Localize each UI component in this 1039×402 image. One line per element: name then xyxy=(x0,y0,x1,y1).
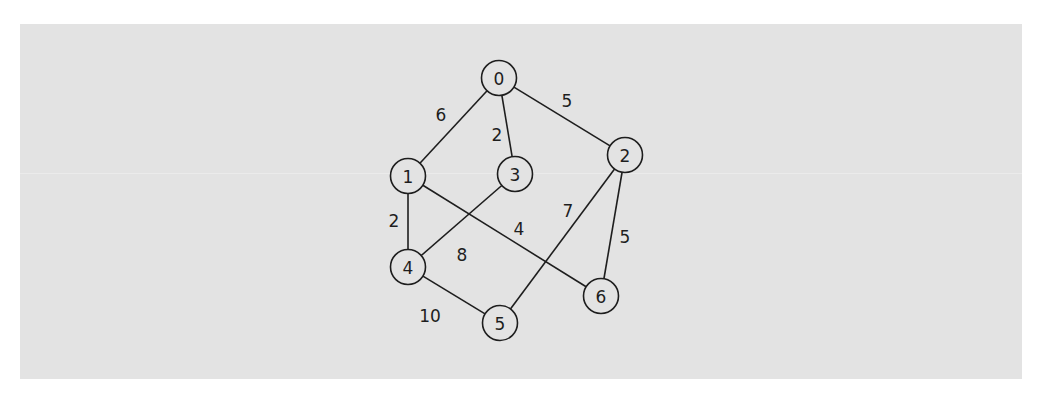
edge-weight-label: 8 xyxy=(457,245,468,265)
graph-node-5: 5 xyxy=(483,306,518,341)
edge-weight-label: 5 xyxy=(620,227,631,247)
edge-weight-label: 5 xyxy=(562,91,573,111)
edge-weight-label: 7 xyxy=(563,201,574,221)
node-label: 5 xyxy=(495,314,506,334)
graph-node-2: 2 xyxy=(608,138,643,173)
graph-node-1: 1 xyxy=(391,159,426,194)
edge-weight-label: 2 xyxy=(389,211,400,231)
edge-weight-label: 6 xyxy=(436,105,447,125)
node-label: 3 xyxy=(510,165,521,185)
node-label: 4 xyxy=(403,258,414,278)
edge-weight-label: 10 xyxy=(419,306,441,326)
graph-node-3: 3 xyxy=(498,157,533,192)
node-label: 2 xyxy=(620,146,631,166)
node-label: 1 xyxy=(403,167,414,187)
edge-0-1 xyxy=(420,91,487,163)
node-label: 0 xyxy=(494,69,505,89)
graph-node-0: 0 xyxy=(482,61,517,96)
edge-weight-label: 4 xyxy=(514,219,525,239)
graph-diagram: 6252487510 0123456 xyxy=(0,0,1039,402)
graph-node-4: 4 xyxy=(391,250,426,285)
node-label: 6 xyxy=(596,287,607,307)
graph-node-6: 6 xyxy=(584,279,619,314)
edge-weight-label: 2 xyxy=(492,125,503,145)
edge-2-6 xyxy=(604,172,622,278)
nodes-layer: 0123456 xyxy=(391,61,643,341)
edge-0-3 xyxy=(502,95,512,156)
